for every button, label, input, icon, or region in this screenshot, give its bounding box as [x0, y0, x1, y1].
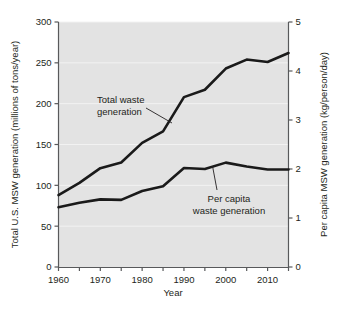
y-tick-label: 50 [41, 221, 52, 232]
x-axis-ticks: 196019701980199020002010 [48, 267, 289, 285]
total-waste-annotation: Total waste generation [97, 94, 145, 117]
y-axis-title: Total U.S. MSW generation (millions of t… [9, 41, 20, 249]
total-waste-annotation-line2: generation [97, 106, 142, 117]
x-tick-label: 1990 [173, 274, 194, 285]
y-tick-label: 150 [36, 139, 52, 150]
y-tick-label: 100 [36, 180, 52, 191]
x-axis-title: Year [163, 287, 182, 298]
y2-tick-label: 1 [296, 212, 301, 223]
per-capita-annotation-line1: Per capita [208, 193, 251, 204]
y2-tick-label: 3 [296, 114, 301, 125]
right-axis-ticks: 012345 [289, 16, 301, 272]
y-tick-label: 0 [46, 261, 51, 272]
x-tick-label: 1960 [48, 274, 69, 285]
y2-tick-label: 5 [296, 16, 301, 27]
y2-tick-label: 2 [296, 163, 301, 174]
y-tick-label: 300 [36, 16, 52, 27]
msw-generation-chart: 050100150200250300 012345 19601970198019… [0, 0, 342, 323]
total-waste-annotation-line1: Total waste [97, 94, 145, 105]
y-tick-label: 250 [36, 57, 52, 68]
x-tick-label: 1980 [132, 274, 153, 285]
x-tick-label: 2000 [215, 274, 236, 285]
per-capita-annotation-line2: waste generation [192, 205, 265, 216]
y2-tick-label: 4 [296, 65, 301, 76]
x-tick-label: 2010 [257, 274, 278, 285]
x-tick-label: 1970 [90, 274, 111, 285]
y-tick-label: 200 [36, 98, 52, 109]
left-axis-ticks: 050100150200250300 [36, 16, 59, 272]
y2-tick-label: 0 [296, 261, 301, 272]
y2-axis-title: Per capita MSW generation (kg/person/day… [318, 52, 329, 237]
